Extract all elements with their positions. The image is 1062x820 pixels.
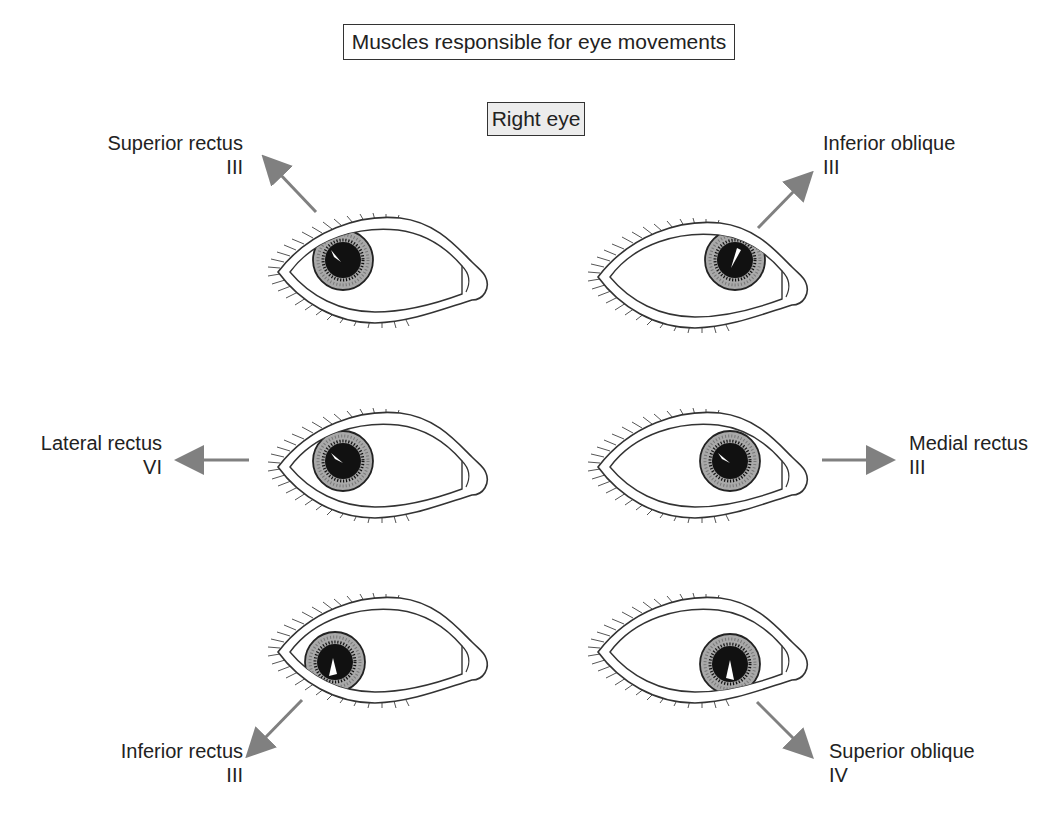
eye-medial-rectus — [588, 408, 807, 523]
label-superior-rectus: Superior rectus III — [95, 131, 243, 179]
nerve-number: IV — [829, 763, 1009, 787]
nerve-number: III — [95, 155, 243, 179]
label-lateral-rectus: Lateral rectus VI — [22, 431, 162, 479]
eye-inferior-oblique — [588, 218, 807, 333]
arrow-down-left-icon — [262, 700, 302, 741]
muscle-name: Inferior oblique — [823, 131, 1003, 155]
label-superior-oblique: Superior oblique IV — [829, 739, 1009, 787]
eye-superior-rectus — [268, 213, 487, 328]
arrow-up-left-icon — [278, 172, 316, 212]
nerve-number: III — [95, 763, 243, 787]
muscle-name: Inferior rectus — [95, 739, 243, 763]
arrow-up-right-icon — [758, 188, 797, 228]
label-inferior-oblique: Inferior oblique III — [823, 131, 1003, 179]
label-medial-rectus: Medial rectus III — [909, 431, 1059, 479]
muscle-name: Superior oblique — [829, 739, 1009, 763]
arrow-down-right-icon — [757, 702, 797, 742]
eye-lateral-rectus — [268, 408, 487, 523]
nerve-number: III — [823, 155, 1003, 179]
muscle-name: Medial rectus — [909, 431, 1059, 455]
eye-movement-diagram — [0, 0, 1062, 820]
eye-superior-oblique — [588, 593, 807, 708]
muscle-name: Lateral rectus — [22, 431, 162, 455]
label-inferior-rectus: Inferior rectus III — [95, 739, 243, 787]
nerve-number: VI — [22, 455, 162, 479]
nerve-number: III — [909, 455, 1059, 479]
eye-inferior-rectus — [268, 593, 487, 708]
muscle-name: Superior rectus — [95, 131, 243, 155]
